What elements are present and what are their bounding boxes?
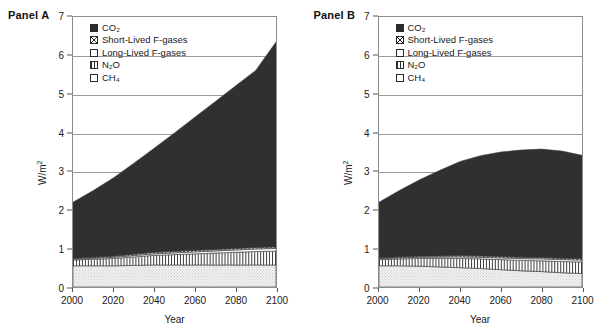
y-axis-tick-mark-2 — [67, 210, 72, 211]
legend-item-short-lived-f-gases: Short-Lived F-gases — [396, 35, 494, 46]
x-axis-tick-mark-2040 — [460, 288, 461, 292]
y-axis-tick-mark-1 — [373, 249, 378, 250]
y-axis-tick-label-4: 4 — [356, 127, 370, 138]
y-axis-tick-mark-6 — [67, 54, 72, 55]
x-axis-tick-label-2020: 2020 — [407, 295, 429, 306]
legend-label: Short-Lived F-gases — [102, 35, 188, 45]
legend-swatch-solid-icon — [90, 24, 98, 32]
x-axis-tick-label-2020: 2020 — [102, 295, 124, 306]
y-axis-tick-mark-2 — [373, 210, 378, 211]
legend-item-n-o: N₂O — [396, 60, 494, 71]
panel-a-title: Panel A — [8, 9, 49, 21]
y-axis-tick-label-1: 1 — [50, 244, 64, 255]
legend-swatch-empty-icon — [396, 49, 404, 57]
y-axis-tick-label-5: 5 — [356, 88, 370, 99]
legend-label: Short-Lived F-gases — [408, 35, 494, 45]
y-axis-tick-label-2: 2 — [356, 205, 370, 216]
panel-b-legend: CO₂Short-Lived F-gasesLong-Lived F-gases… — [396, 22, 494, 83]
y-axis-tick-mark-3 — [373, 171, 378, 172]
legend-label: N₂O — [102, 60, 120, 70]
x-axis-tick-label-2060: 2060 — [489, 295, 511, 306]
legend-label: CO₂ — [102, 23, 120, 33]
legend-item-n-o: N₂O — [90, 60, 188, 71]
area-series-co2 — [379, 149, 582, 259]
x-axis-tick-mark-2020 — [419, 288, 420, 292]
x-axis-tick-mark-2060 — [501, 288, 502, 292]
legend-swatch-stipple-icon — [90, 74, 98, 82]
x-axis-tick-label-2100: 2100 — [571, 295, 593, 306]
y-axis-tick-label-7: 7 — [50, 11, 64, 22]
legend-label: CO₂ — [408, 23, 426, 33]
y-axis-title: W/m2 — [36, 160, 48, 184]
stacked-area-figure: Panel A CO₂Short-Lived F-gasesLong-Lived… — [0, 0, 611, 336]
y-axis-tick-mark-6 — [373, 54, 378, 55]
y-axis-tick-label-2: 2 — [50, 205, 64, 216]
y-axis-tick-mark-5 — [373, 93, 378, 94]
x-axis-tick-label-2100: 2100 — [266, 295, 288, 306]
y-axis-tick-label-6: 6 — [50, 49, 64, 60]
x-axis-tick-label-2040: 2040 — [143, 295, 165, 306]
x-axis-title: Year — [72, 314, 277, 325]
legend-item-short-lived-f-gases: Short-Lived F-gases — [90, 35, 188, 46]
x-axis-tick-mark-2100 — [583, 288, 584, 292]
legend-swatch-stipple-icon — [396, 74, 404, 82]
y-axis-title: W/m2 — [342, 160, 354, 184]
y-axis-tick-label-7: 7 — [356, 11, 370, 22]
y-axis-tick-mark-7 — [67, 16, 72, 17]
legend-swatch-empty-icon — [90, 49, 98, 57]
x-axis-title: Year — [378, 314, 583, 325]
x-axis-tick-label-2040: 2040 — [448, 295, 470, 306]
x-axis-tick-label-2000: 2000 — [366, 295, 388, 306]
x-axis-tick-mark-2040 — [154, 288, 155, 292]
y-axis-tick-mark-4 — [67, 132, 72, 133]
legend-label: Long-Lived F-gases — [102, 48, 186, 58]
legend-swatch-vertical-lines-icon — [396, 61, 404, 69]
legend-item-ch-: CH₄ — [90, 72, 188, 83]
y-axis-tick-label-0: 0 — [356, 283, 370, 294]
x-axis-tick-mark-2080 — [236, 288, 237, 292]
y-axis-tick-label-3: 3 — [50, 166, 64, 177]
legend-swatch-x-hatch-icon — [90, 36, 98, 44]
area-series-ch4 — [73, 265, 276, 287]
panel-b-title: Panel B — [314, 9, 356, 21]
legend-item-co-: CO₂ — [396, 22, 494, 33]
panel-a-legend: CO₂Short-Lived F-gasesLong-Lived F-gases… — [90, 22, 188, 83]
legend-label: N₂O — [408, 60, 426, 70]
y-axis-tick-label-5: 5 — [50, 88, 64, 99]
y-axis-tick-label-4: 4 — [50, 127, 64, 138]
legend-item-long-lived-f-gases: Long-Lived F-gases — [90, 47, 188, 58]
x-axis-tick-mark-2060 — [195, 288, 196, 292]
x-axis-tick-label-2080: 2080 — [225, 295, 247, 306]
panel-a: Panel A CO₂Short-Lived F-gasesLong-Lived… — [0, 0, 306, 336]
y-axis-tick-label-6: 6 — [356, 49, 370, 60]
x-axis-tick-label-2000: 2000 — [61, 295, 83, 306]
legend-item-long-lived-f-gases: Long-Lived F-gases — [396, 47, 494, 58]
y-axis-tick-mark-1 — [67, 249, 72, 250]
legend-item-co-: CO₂ — [90, 22, 188, 33]
x-axis-tick-mark-2080 — [542, 288, 543, 292]
x-axis-tick-mark-2000 — [72, 288, 73, 292]
panel-b: Panel B CO₂Short-Lived F-gasesLong-Lived… — [306, 0, 611, 336]
x-axis-tick-mark-2020 — [113, 288, 114, 292]
legend-label: CH₄ — [408, 73, 426, 83]
y-axis-tick-mark-5 — [67, 93, 72, 94]
y-axis-tick-label-1: 1 — [356, 244, 370, 255]
x-axis-tick-label-2080: 2080 — [530, 295, 552, 306]
legend-item-ch-: CH₄ — [396, 72, 494, 83]
y-axis-tick-mark-7 — [373, 16, 378, 17]
x-axis-tick-mark-2100 — [277, 288, 278, 292]
x-axis-tick-label-2060: 2060 — [184, 295, 206, 306]
legend-label: Long-Lived F-gases — [408, 48, 492, 58]
x-axis-tick-mark-2000 — [378, 288, 379, 292]
legend-swatch-vertical-lines-icon — [90, 61, 98, 69]
y-axis-tick-label-3: 3 — [356, 166, 370, 177]
y-axis-tick-label-0: 0 — [50, 283, 64, 294]
y-axis-tick-mark-4 — [373, 132, 378, 133]
legend-swatch-x-hatch-icon — [396, 36, 404, 44]
legend-label: CH₄ — [102, 73, 120, 83]
legend-swatch-solid-icon — [396, 24, 404, 32]
y-axis-tick-mark-3 — [67, 171, 72, 172]
